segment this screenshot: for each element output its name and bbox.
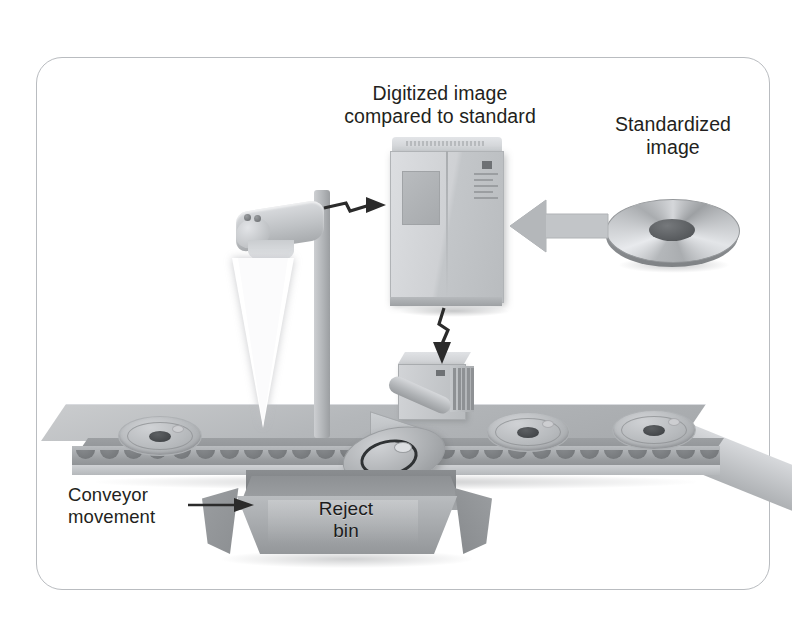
conveyor-tooth [292, 450, 311, 459]
label-conveyor-movement: Conveyor movement [68, 484, 208, 528]
part-hub [517, 427, 539, 438]
part-notch [172, 425, 184, 433]
diagram-canvas: Digitized image compared to standard Sta… [0, 0, 809, 627]
conveyor-tooth [604, 450, 623, 459]
conveyor-tooth [652, 450, 671, 459]
arrow-camera-to-computer-icon [322, 190, 392, 224]
arrow-disc-to-computer-icon [508, 196, 608, 256]
disc-hub [649, 219, 695, 241]
computer-label-line [474, 197, 498, 199]
computer-label-line [474, 179, 493, 181]
conveyor-tooth [580, 450, 599, 459]
conveyor-tooth [676, 450, 695, 459]
arm-fin [462, 368, 465, 410]
arm-fin [467, 368, 470, 410]
computer-top-grille [406, 141, 484, 146]
list-item [612, 410, 696, 450]
conveyor-tooth [700, 450, 719, 459]
label-standardized-image: Standardized image [588, 113, 758, 159]
label-digitized-image: Digitized image compared to standard [300, 82, 580, 128]
camera-indicator-icon [244, 214, 251, 221]
list-item [118, 416, 202, 456]
arm-fin [453, 368, 456, 410]
conveyor-tooth [100, 450, 119, 459]
part-hub [149, 431, 171, 442]
light-beam-core [238, 258, 288, 426]
part-notch [394, 442, 412, 453]
arm-heatsink [450, 366, 474, 412]
camera-indicator-icon [254, 215, 261, 222]
standardized-image-disc [604, 195, 740, 269]
computer-label-line [474, 185, 498, 187]
computer-label-lines [474, 173, 498, 203]
conveyor-tooth [220, 450, 239, 459]
conveyor-tooth [76, 450, 95, 459]
conveyor-tooth [244, 450, 263, 459]
computer-display-panel [402, 171, 440, 225]
conveyor-tooth [316, 450, 335, 459]
computer-label-line [474, 191, 493, 193]
label-reject-bin: Reject bin [286, 498, 406, 543]
part-notch [542, 420, 554, 428]
arm-fin [458, 368, 461, 410]
arrow-computer-to-arm-icon [428, 306, 462, 368]
computer-seam [446, 151, 448, 301]
list-item [486, 412, 570, 452]
reject-arm [376, 358, 496, 488]
part-notch [668, 418, 680, 426]
computer-badge-icon [482, 161, 492, 169]
part-hub [643, 425, 665, 436]
computer-tower [388, 137, 506, 312]
arm-fin [471, 368, 474, 410]
arm-badge-icon [436, 370, 445, 376]
conveyor-tooth [268, 450, 287, 459]
computer-label-line [474, 173, 498, 175]
conveyor-tooth [628, 450, 647, 459]
